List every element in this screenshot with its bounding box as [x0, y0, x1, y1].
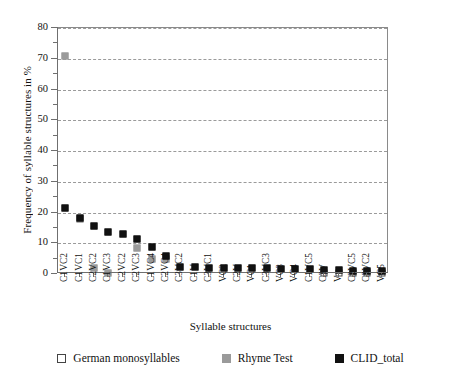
- y-axis-tick-label: 80: [38, 22, 49, 33]
- y-axis-minor-tick: [53, 42, 57, 43]
- x-axis-tick-label: C2VC5: [347, 253, 357, 282]
- x-axis-tick-label: VC2: [218, 264, 228, 282]
- x-axis-tick-label: C3VC2: [361, 253, 371, 282]
- data-point: [105, 228, 112, 235]
- data-point: [148, 243, 155, 250]
- y-axis: 01020304050607080: [57, 27, 58, 273]
- y-axis-tick-label: 40: [38, 145, 49, 156]
- legend-label: Rhyme Test: [238, 352, 293, 364]
- x-axis-tick-label: C1VC3: [102, 253, 112, 282]
- data-point: [62, 52, 69, 59]
- legend-label: CLID_total: [351, 352, 404, 364]
- x-axis-tick-label: C1VC1: [74, 253, 84, 282]
- gridline: [58, 182, 387, 183]
- gridline: [58, 59, 387, 60]
- data-point: [134, 235, 141, 242]
- y-axis-tick: [51, 273, 57, 274]
- y-axis-tick: [51, 89, 57, 90]
- y-axis-tick-label: 70: [38, 53, 49, 64]
- legend-swatch-icon: [222, 354, 231, 363]
- chart-figure: Frequency of syllable structures in % 01…: [0, 0, 461, 382]
- x-axis-tick-label: C3V: [318, 264, 328, 282]
- y-axis-minor-tick: [53, 258, 57, 259]
- y-axis-minor-tick: [53, 227, 57, 228]
- x-axis-tick-label: C1VC2: [59, 253, 69, 282]
- x-axis-tick-label: V: [333, 275, 343, 282]
- y-axis-tick: [51, 212, 57, 213]
- legend-item: Rhyme Test: [222, 352, 293, 364]
- y-axis-tick: [51, 119, 57, 120]
- x-axis-tick-label: C1VC5: [304, 253, 314, 282]
- y-axis-title-text: Frequency of syllable structures in %: [21, 66, 33, 234]
- data-point: [62, 204, 69, 211]
- y-axis-tick-label: 0: [43, 268, 48, 279]
- y-axis-tick: [51, 242, 57, 243]
- y-axis-minor-tick: [53, 165, 57, 166]
- legend-swatch-icon: [335, 354, 344, 363]
- x-axis-tick-label: C3VC1: [203, 253, 213, 282]
- x-axis-tick-label: VC1: [246, 264, 256, 282]
- plot-area: [57, 27, 388, 273]
- legend-swatch-icon: [57, 354, 66, 363]
- x-axis-tick-label: C3VC2: [174, 253, 184, 282]
- x-axis-tick-label: C2VC2: [88, 253, 98, 282]
- data-point: [76, 214, 83, 221]
- y-axis-minor-tick: [53, 135, 57, 136]
- legend-item: CLID_total: [335, 352, 404, 364]
- gridline: [58, 28, 387, 29]
- x-axis-tick-label: C2VC4: [160, 253, 170, 282]
- y-axis-tick-label: 60: [38, 83, 49, 94]
- y-axis-tick: [51, 27, 57, 28]
- chart-legend: German monosyllablesRhyme TestCLID_total: [0, 352, 461, 364]
- gridline: [58, 90, 387, 91]
- y-axis-tick: [51, 58, 57, 59]
- gridline: [58, 243, 387, 244]
- y-axis-title: Frequency of syllable structures in %: [20, 27, 34, 273]
- data-point: [134, 244, 141, 251]
- x-axis-tick-label: C2VC3: [131, 253, 141, 282]
- data-point: [90, 222, 97, 229]
- y-axis-tick-label: 10: [38, 237, 49, 248]
- y-axis-minor-tick: [53, 73, 57, 74]
- y-axis-tick: [51, 181, 57, 182]
- y-axis-minor-tick: [53, 104, 57, 105]
- x-axis-tick-label: C2V: [232, 264, 242, 282]
- y-axis-tick-label: 50: [38, 114, 49, 125]
- x-axis-tick-label: C2VC2: [117, 253, 127, 282]
- legend-item: German monosyllables: [57, 352, 179, 364]
- y-axis-minor-tick: [53, 196, 57, 197]
- x-axis-tick-label: C3VC3: [261, 253, 271, 282]
- x-axis-title: Syllable structures: [0, 320, 461, 332]
- y-axis-tick: [51, 150, 57, 151]
- data-point: [119, 231, 126, 238]
- y-axis-tick-label: 20: [38, 206, 49, 217]
- legend-label: German monosyllables: [73, 352, 179, 364]
- x-axis-tick-label: VC4: [289, 264, 299, 282]
- gridline: [58, 213, 387, 214]
- gridline: [58, 151, 387, 152]
- y-axis-tick-label: 30: [38, 176, 49, 187]
- x-axis-tick-label: C1VC4: [146, 253, 156, 282]
- x-axis-tick-label: VC5: [376, 264, 386, 282]
- x-axis-tick-label: VC3: [275, 264, 285, 282]
- gridline: [58, 120, 387, 121]
- x-axis-tick-label: C1V: [189, 264, 199, 282]
